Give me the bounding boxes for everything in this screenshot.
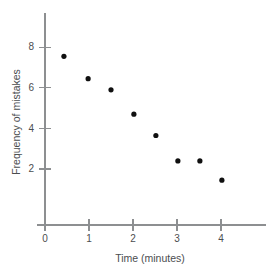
y-tick-label: 8	[28, 41, 34, 52]
x-tick-label: 2	[130, 233, 136, 244]
data-point	[131, 112, 136, 117]
x-axis-ticks: 01234	[42, 219, 224, 244]
x-tick-label: 1	[86, 233, 92, 244]
scatter-chart: 2468 01234 Time (minutes) Frequency of m…	[0, 0, 279, 277]
axes-group	[37, 13, 266, 225]
data-point	[86, 76, 91, 81]
data-point-series	[61, 54, 224, 183]
data-point	[175, 158, 180, 163]
data-point	[61, 54, 66, 59]
x-tick-label: 4	[218, 233, 224, 244]
x-tick-label: 3	[174, 233, 180, 244]
x-tick-label: 0	[42, 233, 48, 244]
data-point	[153, 133, 158, 138]
data-point	[219, 178, 224, 183]
y-axis-ticks: 2468	[28, 41, 51, 174]
y-tick-label: 2	[28, 163, 34, 174]
chart-canvas: 2468 01234 Time (minutes) Frequency of m…	[0, 0, 279, 277]
data-point	[108, 87, 113, 92]
x-axis-title: Time (minutes)	[115, 252, 185, 264]
data-point	[197, 158, 202, 163]
y-tick-label: 4	[28, 123, 34, 134]
y-tick-label: 6	[28, 82, 34, 93]
y-axis-title: Frequency of mistakes	[10, 69, 22, 175]
